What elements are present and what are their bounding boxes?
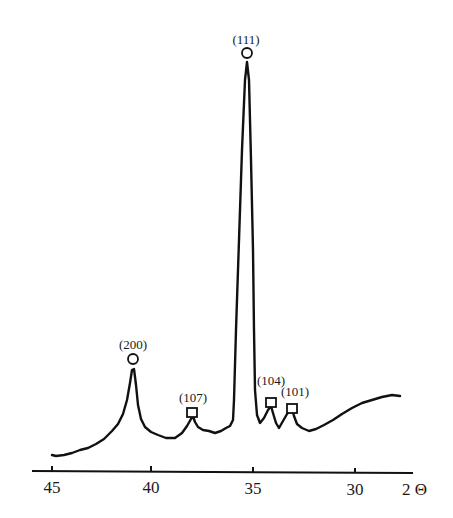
diffraction-curve — [52, 62, 400, 456]
peak-marker-111-icon — [242, 48, 252, 58]
x-tick-label-40: 40 — [143, 479, 160, 496]
peak-marker-107-icon — [187, 408, 197, 417]
x-tick-label-45: 45 — [44, 479, 61, 496]
peak-label-101: (101) — [281, 385, 309, 398]
peak-marker-200-icon — [128, 354, 138, 364]
xrd-chart — [0, 0, 453, 518]
x-tick-label-35: 35 — [245, 480, 262, 497]
peak-label-111: (111) — [232, 33, 259, 46]
peak-marker-101-icon — [287, 404, 297, 413]
x-tick-label-30: 30 — [347, 481, 364, 498]
x-axis-label: 2 Θ — [402, 481, 427, 498]
peak-marker-104-icon — [266, 398, 276, 407]
peak-label-200: (200) — [119, 338, 147, 351]
peak-label-107: (107) — [179, 391, 207, 404]
